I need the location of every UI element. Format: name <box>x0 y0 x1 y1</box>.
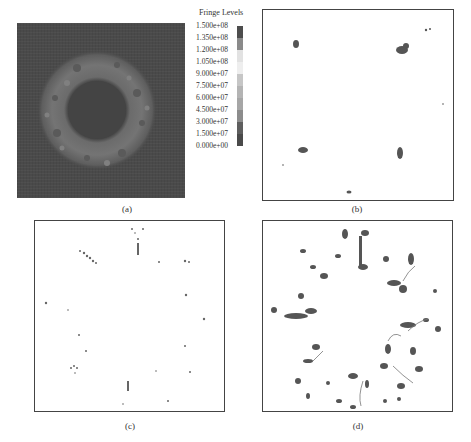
panel-b-cluster-plot <box>262 9 454 201</box>
speckle-graphic <box>35 221 224 411</box>
fringe-levels-legend: Fringe Levels 1.500e+08 1.350e+08 1.200e… <box>196 8 256 152</box>
colorbar <box>237 26 243 146</box>
cluster-graphic <box>263 10 453 200</box>
legend-level: 7.500e+07 <box>196 80 256 92</box>
legend-title: Fringe Levels <box>199 8 256 17</box>
legend-level: 6.000e+07 <box>196 92 256 104</box>
legend-level: 1.050e+08 <box>196 56 256 68</box>
panel-a-label: (a) <box>112 204 142 214</box>
panel-c-speckle-plot <box>34 220 225 412</box>
legend-level: 9.000e+07 <box>196 68 256 80</box>
panel-c-label: (c) <box>115 421 145 431</box>
legend-level: 4.500e+07 <box>196 104 256 116</box>
legend-level: 3.000e+07 <box>196 116 256 128</box>
legend-level: 1.500e+08 <box>196 20 256 32</box>
panel-b-label: (b) <box>342 204 372 214</box>
legend-level: 1.350e+08 <box>196 32 256 44</box>
legend-level: 0.000e+00 <box>196 140 256 152</box>
ring-contour-graphic <box>17 23 185 198</box>
legend-level: 1.500e+07 <box>196 128 256 140</box>
legend-level: 1.200e+08 <box>196 44 256 56</box>
cluster-ring-graphic <box>263 221 452 411</box>
panel-a-fringe-plot <box>17 23 185 198</box>
panel-d-cluster-ring-plot <box>262 220 453 412</box>
panel-d-label: (d) <box>343 421 373 431</box>
